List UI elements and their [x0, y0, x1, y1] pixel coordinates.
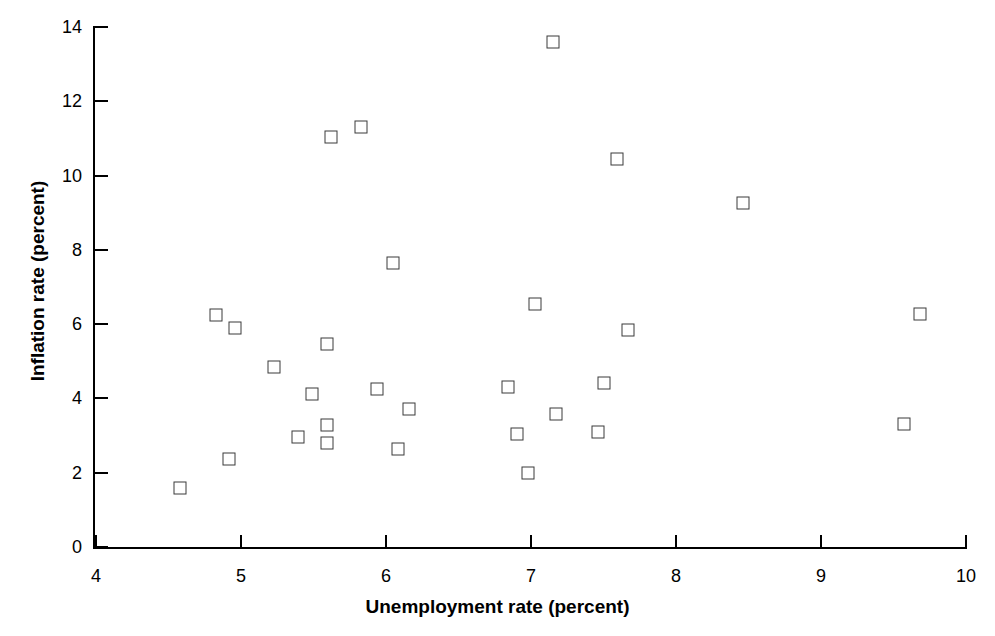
data-point-marker	[223, 452, 236, 465]
data-point-marker	[210, 309, 223, 322]
data-point-marker	[291, 431, 304, 444]
data-point-marker	[591, 425, 604, 438]
data-point-marker	[529, 298, 542, 311]
data-point-marker	[324, 130, 337, 143]
data-point-marker	[268, 360, 281, 373]
data-point-marker	[549, 408, 562, 421]
data-point-marker	[371, 383, 384, 396]
data-point-marker	[174, 481, 187, 494]
plot-area	[0, 0, 995, 636]
data-point-marker	[522, 467, 535, 480]
data-point-marker	[622, 324, 635, 337]
y-axis-title: Inflation rate (percent)	[27, 141, 49, 421]
data-point-marker	[355, 120, 368, 133]
data-point-marker	[597, 377, 610, 390]
data-point-marker	[403, 402, 416, 415]
data-point-marker	[897, 418, 910, 431]
data-point-marker	[229, 322, 242, 335]
data-point-marker	[391, 442, 404, 455]
data-point-marker	[913, 308, 926, 321]
data-point-marker	[510, 428, 523, 441]
data-point-marker	[387, 256, 400, 269]
data-point-marker	[306, 387, 319, 400]
data-point-marker	[320, 337, 333, 350]
data-point-marker	[501, 380, 514, 393]
data-point-marker	[610, 153, 623, 166]
data-point-marker	[736, 197, 749, 210]
scatter-plot-figure: 02468101214 45678910 Unemployment rate (…	[0, 0, 995, 636]
data-point-marker	[320, 418, 333, 431]
data-point-marker	[320, 437, 333, 450]
x-axis-title: Unemployment rate (percent)	[0, 596, 995, 618]
data-point-marker	[546, 35, 559, 48]
